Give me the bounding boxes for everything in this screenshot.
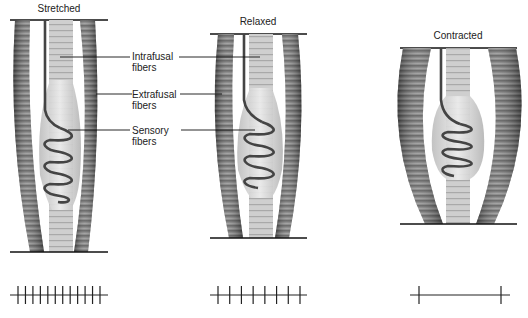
firing-scale-contracted bbox=[410, 286, 510, 304]
muscle-spindle-diagram: Stretched Relaxed Contracted Intrafusal … bbox=[0, 0, 528, 318]
diagram-canvas bbox=[0, 0, 528, 318]
panel-title-relaxed: Relaxed bbox=[208, 16, 308, 27]
panel-title-stretched: Stretched bbox=[9, 3, 109, 14]
firing-scale-relaxed bbox=[210, 286, 307, 304]
panel-title-contracted: Contracted bbox=[408, 30, 508, 41]
panel-stretched bbox=[10, 20, 108, 252]
panel-contracted bbox=[397, 48, 521, 224]
firing-scale-stretched bbox=[10, 286, 108, 304]
label-intrafusal-fibers: Intrafusal fibers bbox=[132, 51, 173, 73]
panel-relaxed bbox=[210, 34, 307, 238]
label-sensory-fibers: Sensory fibers bbox=[132, 125, 169, 147]
label-extrafusal-fibers: Extrafusal fibers bbox=[132, 89, 176, 111]
